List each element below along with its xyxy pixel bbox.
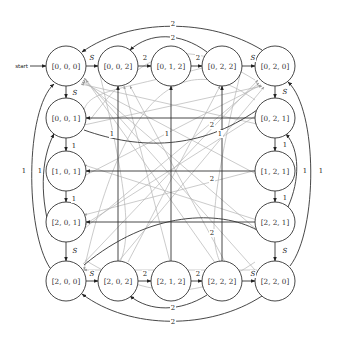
edge-label: 2 bbox=[143, 270, 147, 278]
edge-label: 1 bbox=[110, 130, 114, 138]
edge-label: 1 bbox=[72, 142, 76, 150]
state-node: [0, 2, 2] bbox=[202, 46, 242, 86]
state-node: [1, 0, 1] bbox=[46, 151, 86, 191]
edge-label: S bbox=[251, 270, 256, 278]
edge-label: 2 bbox=[171, 20, 175, 28]
state-node: [2, 0, 2] bbox=[98, 261, 138, 301]
edge-label: 2 bbox=[210, 229, 214, 237]
light-edges bbox=[81, 54, 264, 291]
state-node: [2, 1, 2] bbox=[151, 261, 191, 301]
edge-label: 1 bbox=[38, 167, 42, 175]
state-label: [0, 2, 1] bbox=[261, 114, 290, 123]
state-label: [0, 2, 0] bbox=[261, 62, 290, 71]
start-label: start bbox=[15, 63, 29, 69]
edge-label: 2 bbox=[196, 54, 200, 62]
edge-label: 1 bbox=[319, 167, 323, 175]
state-label: [1, 2, 1] bbox=[261, 167, 290, 176]
edge-label: 1 bbox=[283, 194, 287, 202]
state-label: [2, 2, 2] bbox=[208, 277, 237, 286]
edge-label: 2 bbox=[143, 54, 147, 62]
state-node: [0, 2, 0] bbox=[255, 46, 295, 86]
state-transition-diagram: start [0, 0, 0][0, 0, 2][0, 1, 2][0, 2, … bbox=[0, 0, 337, 341]
state-label: [0, 0, 0] bbox=[52, 62, 81, 71]
edge-label: 2 bbox=[171, 34, 175, 42]
edge-label: S bbox=[90, 54, 95, 62]
edge-label: S bbox=[251, 54, 256, 62]
edge-label: 1 bbox=[283, 141, 287, 149]
state-node: [2, 2, 0] bbox=[255, 261, 295, 301]
edge-label: 1 bbox=[303, 167, 307, 175]
state-label: [0, 1, 2] bbox=[157, 62, 186, 71]
state-node: [0, 1, 2] bbox=[151, 46, 191, 86]
edge-label: S bbox=[283, 247, 288, 255]
state-label: [2, 2, 1] bbox=[261, 218, 290, 227]
state-node: [0, 0, 2] bbox=[98, 46, 138, 86]
state-label: [0, 0, 2] bbox=[104, 62, 133, 71]
edge-label: S bbox=[73, 89, 78, 97]
edge-label: 1 bbox=[72, 195, 76, 203]
state-label: [2, 1, 2] bbox=[157, 277, 186, 286]
edge-label: 2 bbox=[171, 304, 175, 312]
edge-label: 2 bbox=[210, 175, 214, 183]
state-label: [2, 0, 2] bbox=[104, 277, 133, 286]
state-label: [1, 0, 1] bbox=[52, 167, 81, 176]
state-node: [2, 2, 1] bbox=[255, 202, 295, 242]
state-node: [1, 2, 1] bbox=[255, 151, 295, 191]
state-label: [2, 0, 0] bbox=[52, 277, 81, 286]
edge-label: 2 bbox=[210, 121, 214, 129]
edge-label: S bbox=[283, 88, 288, 96]
edge-label: 2 bbox=[196, 270, 200, 278]
state-node: [0, 2, 1] bbox=[255, 98, 295, 138]
state-label: [2, 2, 0] bbox=[261, 277, 290, 286]
state-label: [0, 2, 2] bbox=[208, 62, 237, 71]
edge-label: 1 bbox=[218, 130, 222, 138]
edge-label: S bbox=[73, 247, 78, 255]
state-node: [2, 0, 0] bbox=[46, 261, 86, 301]
state-node: [0, 0, 1] bbox=[46, 98, 86, 138]
edge-label: S bbox=[90, 270, 95, 278]
edge-label: 1 bbox=[22, 167, 26, 175]
edge-label: 2 bbox=[171, 318, 175, 326]
state-node: [0, 0, 0] bbox=[46, 46, 86, 86]
state-node: [2, 0, 1] bbox=[46, 202, 86, 242]
state-label: [0, 0, 1] bbox=[52, 114, 81, 123]
edge-label: 1 bbox=[165, 130, 169, 138]
state-node: [2, 2, 2] bbox=[202, 261, 242, 301]
state-label: [2, 0, 1] bbox=[52, 218, 81, 227]
